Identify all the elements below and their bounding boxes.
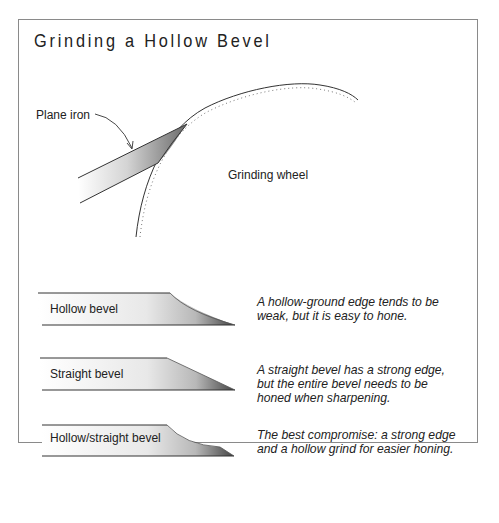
straight-bevel-label: Straight bevel	[50, 367, 123, 381]
hollow-bevel-label: Hollow bevel	[50, 302, 118, 316]
grinding-wheel-icon	[136, 84, 358, 237]
plane-iron-icon	[78, 124, 187, 203]
hollow-bevel-description: A hollow-ground edge tends to be weak, b…	[257, 295, 457, 323]
leader-arrow-icon	[95, 114, 133, 149]
grinding-wheel-label: Grinding wheel	[228, 168, 308, 182]
straight-bevel-description: A straight bevel has a strong edge, but …	[257, 363, 457, 405]
hollow-straight-bevel-description: The best compromise: a strong edge and a…	[257, 428, 457, 456]
hollow-straight-bevel-label: Hollow/straight bevel	[50, 431, 161, 445]
plane-iron-label: Plane iron	[36, 108, 90, 122]
